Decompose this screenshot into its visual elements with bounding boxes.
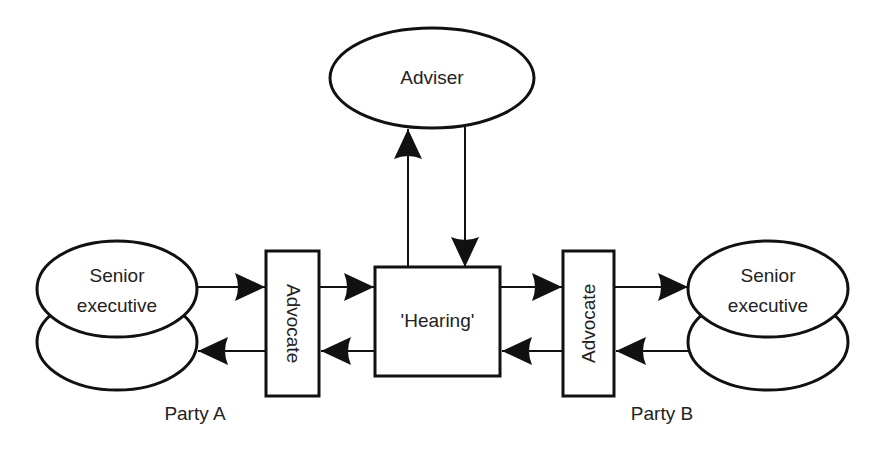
party-a-label: Party A [145, 402, 245, 426]
advocate-a-label: Advocate [266, 251, 319, 396]
exec-a-label-line2: executive [37, 294, 197, 318]
exec-a-label-line1: Senior [37, 264, 197, 288]
advocate-b-label: Advocate [563, 251, 614, 396]
exec-b-label-line1: Senior [688, 264, 848, 288]
adviser-label: Adviser [330, 66, 534, 90]
exec-a-label: Senior executive [37, 264, 197, 318]
party-b-label: Party B [612, 402, 712, 426]
hearing-label: 'Hearing' [375, 309, 500, 333]
exec-b-label-line2: executive [688, 294, 848, 318]
exec-b-label: Senior executive [688, 264, 848, 318]
